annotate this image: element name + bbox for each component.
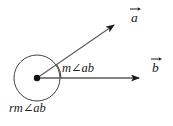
vector-b-letter: b	[152, 60, 159, 75]
vector-arrow-icon	[130, 6, 141, 11]
vector-b-label: b	[152, 56, 159, 75]
vector-a-letter: a	[131, 10, 138, 25]
angle-measure-label: m∠ab	[62, 62, 94, 75]
vector-a-label: a	[131, 6, 138, 25]
geometry-figure: m∠ab rm∠ab a b	[0, 0, 173, 126]
vector-b-letter-wrap: b	[152, 56, 159, 75]
reflex-angle-measure-label: rm∠ab	[9, 102, 46, 115]
vector-arrow-icon	[151, 56, 162, 61]
vector-a-letter-wrap: a	[131, 6, 138, 25]
vertex-point	[34, 75, 40, 81]
